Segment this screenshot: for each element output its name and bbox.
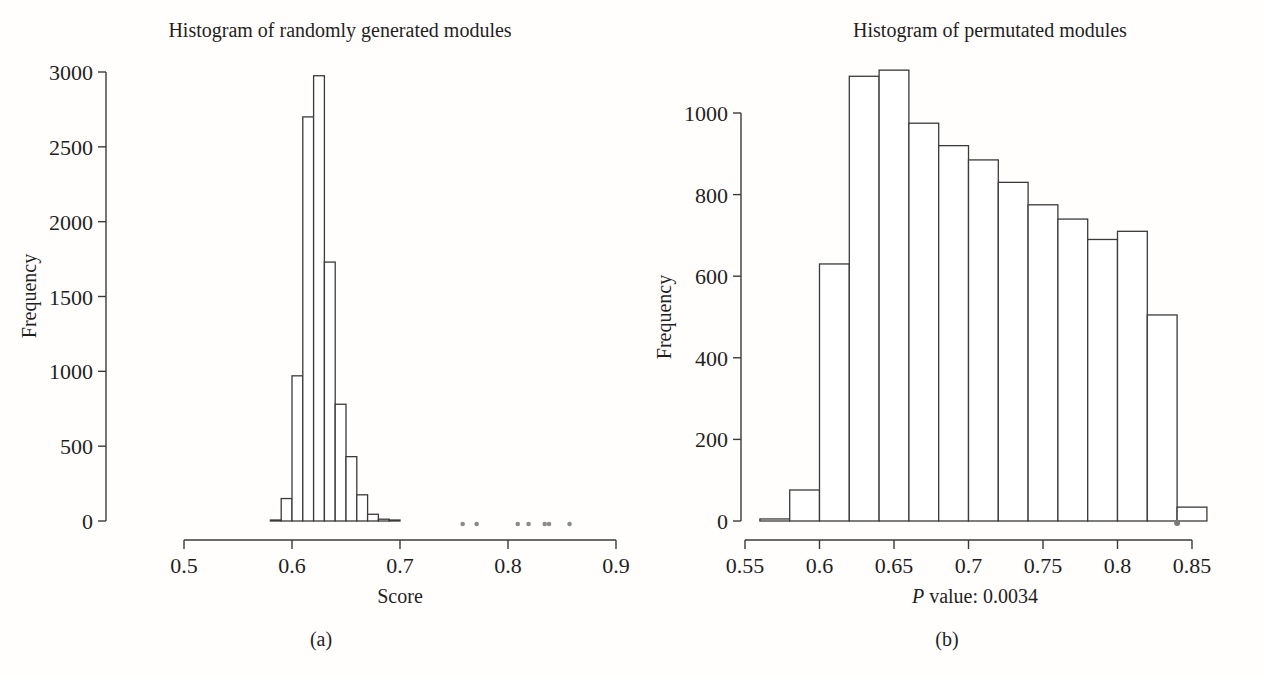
histogram-bar [969, 160, 999, 521]
panel-a-caption: (a) [310, 628, 332, 651]
outlier-dot [547, 522, 552, 527]
y-tick-label: 2000 [49, 210, 93, 235]
histogram-bar [270, 520, 281, 521]
histogram-bar [357, 495, 368, 521]
x-tick-label: 0.9 [602, 553, 630, 578]
x-tick-label: 0.85 [1173, 553, 1212, 578]
histogram-bar [368, 514, 379, 521]
x-tick-label: 0.7 [955, 553, 983, 578]
pvalue-text: value: 0.0034 [924, 585, 1038, 607]
x-tick-label: 0.6 [278, 553, 306, 578]
histogram-bar [281, 499, 292, 521]
y-tick-label: 1000 [49, 359, 93, 384]
histogram-bar [998, 182, 1028, 521]
y-tick-label: 0 [82, 509, 93, 534]
histogram-bar [314, 76, 325, 521]
histogram-bar [378, 519, 389, 521]
panel-a: Histogram of randomly generated modules … [18, 19, 630, 651]
histogram-bar [1028, 205, 1058, 521]
histogram-bar [292, 376, 303, 521]
panel-b-title: Histogram of permutated modules [853, 19, 1127, 42]
histogram-bar [760, 519, 790, 521]
y-tick-label: 1000 [684, 101, 728, 126]
x-tick-label: 0.55 [726, 553, 765, 578]
histogram-bar [1177, 507, 1207, 521]
outlier-dot [567, 522, 572, 527]
x-tick-label: 0.5 [170, 553, 198, 578]
x-tick-label: 0.75 [1024, 553, 1063, 578]
x-tick-label: 0.8 [494, 553, 522, 578]
panel-a-title: Histogram of randomly generated modules [168, 19, 511, 42]
histogram-bar [303, 117, 314, 521]
x-tick-label: 0.65 [875, 553, 914, 578]
histogram-bar [820, 264, 850, 521]
pvalue-italic-p: P [911, 585, 924, 607]
y-tick-label: 600 [695, 264, 728, 289]
histogram-bar [324, 262, 335, 521]
panel-b-caption: (b) [935, 628, 958, 651]
y-tick-label: 1500 [49, 285, 93, 310]
histogram-bar [346, 457, 357, 521]
histogram-bar [1118, 231, 1148, 521]
outlier-dot [515, 522, 520, 527]
outlier-dot [460, 522, 465, 527]
histogram-bar [389, 520, 400, 521]
y-tick-label: 800 [695, 183, 728, 208]
histogram-bar [335, 404, 346, 521]
panel-b-ylabel: Frequency [653, 275, 676, 359]
y-tick-label: 400 [695, 346, 728, 371]
histogram-bar [1088, 239, 1118, 521]
y-tick-label: 2500 [49, 135, 93, 160]
observed-score-dot [1174, 520, 1180, 526]
x-tick-label: 0.8 [1104, 553, 1132, 578]
histogram-bar [879, 70, 909, 521]
panel-b: Histogram of permutated modules Frequenc… [653, 19, 1211, 651]
outlier-dot [542, 522, 547, 527]
y-tick-label: 500 [60, 434, 93, 459]
outlier-dot [526, 522, 531, 527]
x-tick-label: 0.7 [386, 553, 414, 578]
panel-b-pvalue-label: P value: 0.0034 [911, 585, 1038, 607]
histogram-bar [849, 76, 879, 521]
panel-b-plot-area: 020040060080010000.550.60.650.70.750.80.… [684, 70, 1211, 578]
panel-a-xlabel: Score [377, 585, 423, 607]
histogram-bar [909, 123, 939, 521]
panel-a-plot-area: 0500100015002000250030000.50.60.70.80.9 [49, 60, 630, 578]
figure-canvas: Histogram of randomly generated modules … [0, 0, 1265, 676]
histogram-bar [790, 490, 820, 521]
panel-a-ylabel: Frequency [18, 254, 41, 338]
x-tick-label: 0.6 [806, 553, 834, 578]
histogram-bar [939, 146, 969, 521]
outlier-dot [474, 522, 479, 527]
dual-histogram-figure: Histogram of randomly generated modules … [0, 0, 1265, 676]
y-tick-label: 3000 [49, 60, 93, 85]
y-tick-label: 200 [695, 427, 728, 452]
histogram-bar [1058, 219, 1088, 521]
histogram-bar [1147, 315, 1177, 521]
y-tick-label: 0 [717, 509, 728, 534]
